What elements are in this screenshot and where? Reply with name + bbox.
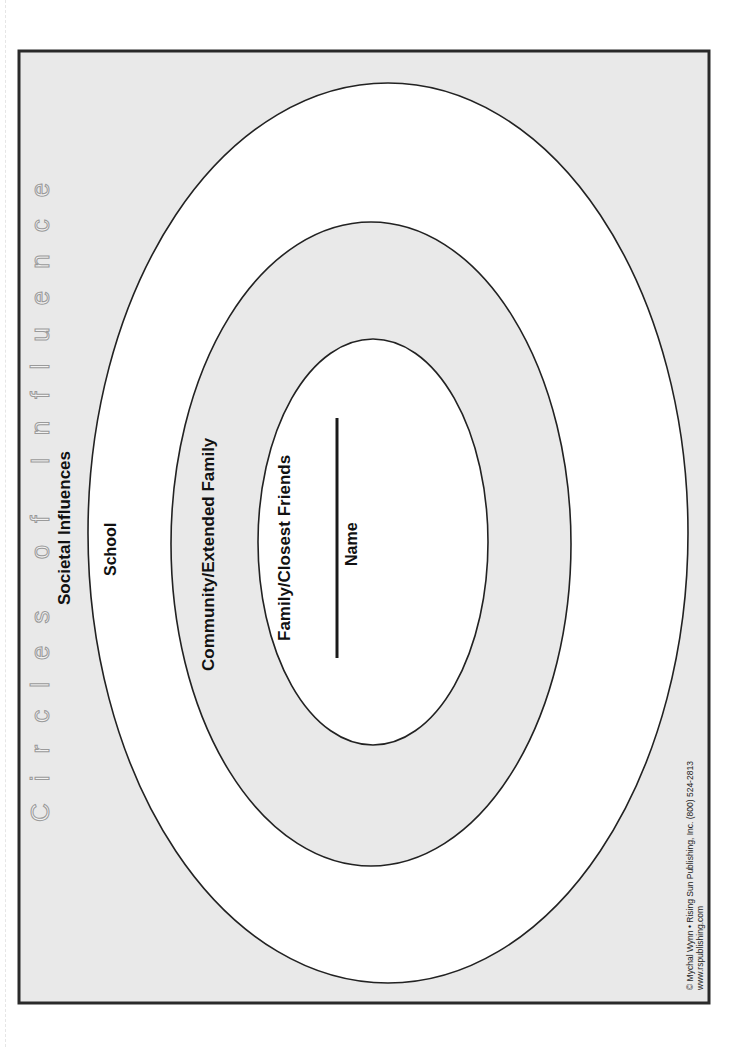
label-family-closest-friends: Family/Closest Friends [276, 455, 293, 641]
label-societal-influences: Societal Influences [56, 451, 73, 605]
copyright-url: www.rspublishing.com [695, 761, 705, 990]
worksheet-title: Circles of Influence [27, 161, 53, 822]
copyright-line-1: © Mychal Wynn • Rising Sun Publishing, I… [685, 761, 695, 990]
label-community-extended-family: Community/Extended Family [200, 438, 217, 671]
label-name: Name [344, 522, 360, 566]
label-school: School [103, 523, 119, 576]
copyright-notice: © Mychal Wynn • Rising Sun Publishing, I… [685, 761, 705, 990]
